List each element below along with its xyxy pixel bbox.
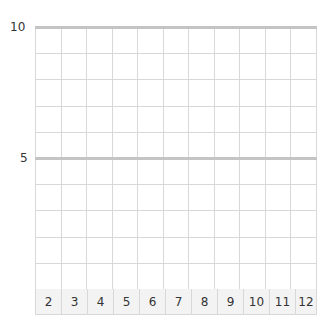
- x-tick-label: 2: [35, 289, 61, 315]
- x-tick-label: 11: [269, 289, 295, 315]
- grid-vline: [112, 27, 113, 315]
- x-tick-label: 8: [191, 289, 217, 315]
- y-tick-5: 5: [20, 151, 28, 165]
- chart-grid: 23456789101112: [35, 27, 316, 316]
- grid-vline: [188, 27, 189, 315]
- x-tick-label: 5: [113, 289, 139, 315]
- grid-hline: [35, 132, 316, 133]
- grid-vline: [265, 27, 266, 315]
- grid-hline: [35, 237, 316, 238]
- grid-vline: [137, 27, 138, 315]
- grid-hline: [35, 210, 316, 211]
- x-tick-label: 10: [243, 289, 269, 315]
- x-tick-label: 7: [165, 289, 191, 315]
- grid-hline: [35, 263, 316, 264]
- grid-hline: [35, 184, 316, 185]
- grid-vline: [214, 27, 215, 315]
- x-tick-label: 9: [217, 289, 243, 315]
- grid-vline: [290, 27, 291, 315]
- grid-vline: [316, 27, 317, 315]
- grid-hline: [35, 79, 316, 80]
- x-tick-label: 12: [295, 289, 317, 315]
- x-tick-label: 6: [139, 289, 165, 315]
- grid-vline: [61, 27, 62, 315]
- x-tick-label: 3: [61, 289, 87, 315]
- grid-vline: [86, 27, 87, 315]
- x-tick-label: 4: [87, 289, 113, 315]
- x-axis-label-row: 23456789101112: [35, 289, 317, 315]
- gridline-10: [35, 26, 317, 29]
- gridline-5: [35, 157, 317, 160]
- grid-vline: [239, 27, 240, 315]
- grid-vline: [35, 27, 36, 315]
- grid-vline: [163, 27, 164, 315]
- grid-hline: [35, 53, 316, 54]
- grid-hline: [35, 106, 316, 107]
- y-tick-10: 10: [10, 20, 25, 34]
